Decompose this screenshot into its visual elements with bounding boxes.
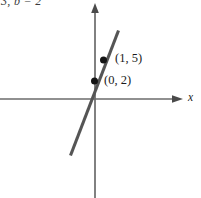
data-point-label-0-2: (0, 2) [104,74,131,87]
graph-figure: 3, b = 2 (1, 5) (0, 2) x [0,0,201,198]
coordinate-plane-plot [0,0,201,198]
data-point-0-2 [91,78,98,85]
x-axis-label: x [188,92,193,104]
data-point-label-1-5: (1, 5) [115,52,142,65]
y-axis-arrowhead-icon [91,3,99,13]
x-axis-arrowhead-icon [172,95,183,103]
data-point-1-5 [100,57,107,64]
